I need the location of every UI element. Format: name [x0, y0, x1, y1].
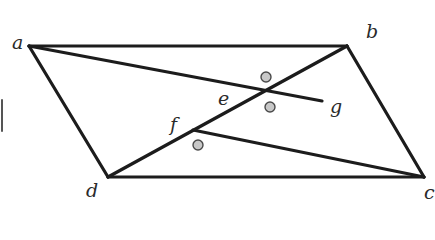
- segments: [29, 46, 424, 177]
- label-g: g: [330, 97, 342, 116]
- segment-da: [29, 46, 108, 177]
- label-e: e: [218, 89, 229, 108]
- label-b: b: [366, 22, 378, 41]
- label-d: d: [86, 181, 98, 200]
- segment-bc: [347, 46, 424, 177]
- segment-fc: [193, 130, 424, 177]
- angle-below-e-dot-icon: [265, 102, 275, 112]
- angle-above-e-dot-icon: [261, 72, 271, 82]
- segment-ag: [29, 46, 322, 101]
- label-f: f: [170, 115, 177, 134]
- angle-below-f-dot-icon: [193, 140, 203, 150]
- label-c: c: [424, 183, 435, 202]
- label-a: a: [12, 33, 23, 52]
- segment-db: [108, 46, 347, 177]
